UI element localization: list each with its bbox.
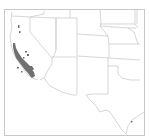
range-patch-texas bbox=[131, 121, 133, 123]
range-patch-sierra bbox=[25, 51, 27, 53]
map-canvas bbox=[0, 0, 149, 140]
range-map: Range map bbox=[0, 0, 149, 140]
range-patch-north bbox=[18, 25, 20, 28]
